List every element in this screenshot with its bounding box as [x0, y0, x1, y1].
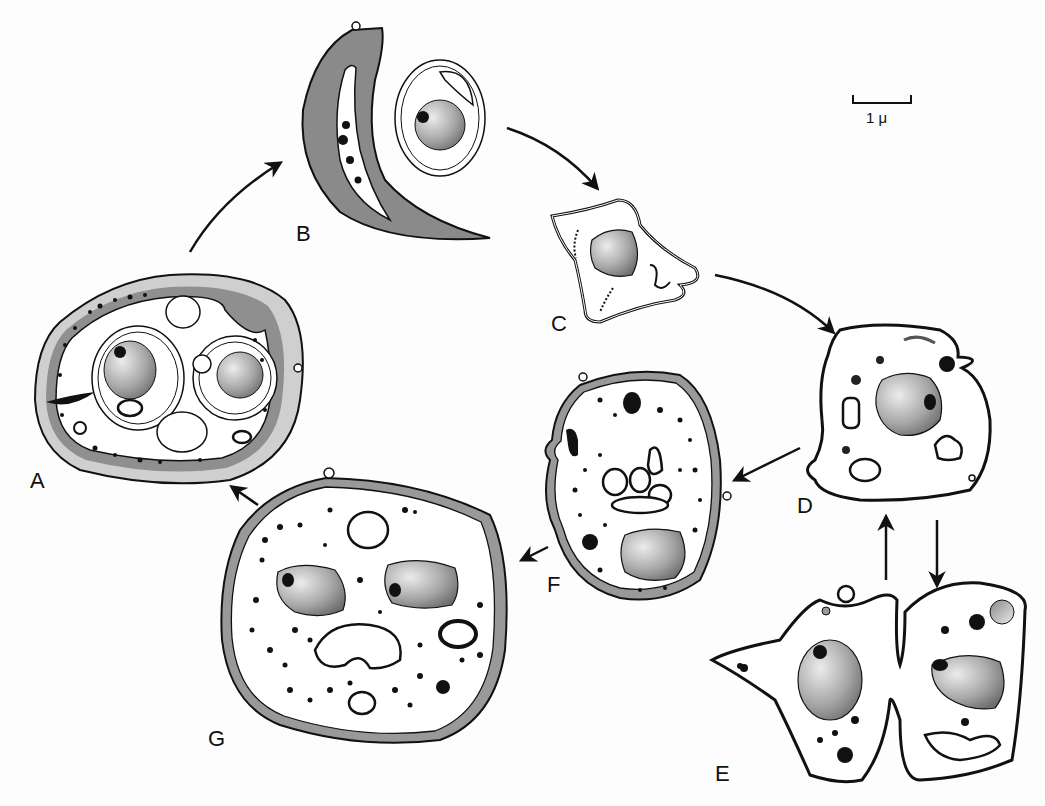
cell-c — [552, 200, 698, 322]
stage-label-e: E — [715, 763, 730, 785]
stage-label-a: A — [30, 470, 45, 492]
stage-label-c: C — [551, 313, 567, 335]
stage-label-d: D — [797, 495, 813, 517]
arrow-c-to-d — [715, 275, 833, 332]
arrow-d-to-f — [735, 448, 800, 480]
nucleus — [621, 529, 685, 580]
arrow-g-to-a — [232, 487, 258, 505]
arrow-a-to-b — [190, 163, 280, 252]
nucleus-left — [798, 640, 862, 720]
cell-b — [302, 22, 490, 239]
nucleus — [104, 341, 156, 399]
nucleus — [591, 230, 638, 277]
stage-label-f: F — [547, 574, 560, 596]
stage-label-b: B — [296, 223, 311, 245]
cell-d — [808, 325, 991, 500]
arrow-b-to-c — [507, 128, 597, 188]
scale-bar — [853, 95, 911, 103]
arrow-f-to-g — [522, 547, 548, 560]
cell-f — [545, 372, 731, 600]
stage-label-g: G — [208, 728, 225, 750]
cell-g — [221, 468, 506, 743]
scale-bar-label: 1 μ — [866, 110, 887, 125]
nucleus — [217, 352, 263, 398]
cell-e — [712, 583, 1025, 782]
cell-a — [35, 274, 303, 483]
nucleus — [415, 100, 465, 150]
life-cycle-diagram — [0, 0, 1045, 806]
